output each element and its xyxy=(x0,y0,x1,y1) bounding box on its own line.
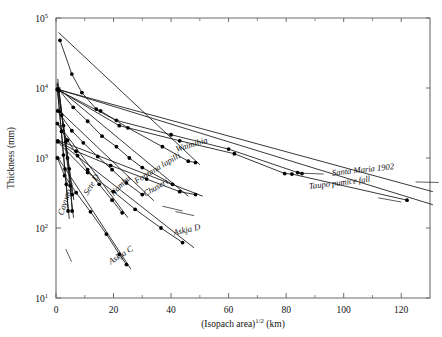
data-point xyxy=(126,126,130,130)
data-point xyxy=(80,91,84,95)
data-point xyxy=(181,241,185,245)
data-point xyxy=(74,149,78,153)
data-point xyxy=(64,140,68,144)
data-point xyxy=(296,171,300,175)
label-leader-line xyxy=(416,182,439,183)
data-point xyxy=(70,72,74,76)
data-point xyxy=(232,152,236,156)
y-tick-label: 105 xyxy=(35,12,48,24)
data-point xyxy=(227,147,231,151)
data-point xyxy=(186,159,190,163)
data-point xyxy=(67,167,71,171)
y-axis-tick-labels: 101102103104105 xyxy=(35,12,49,304)
data-point xyxy=(74,191,78,195)
x-tick-label: 40 xyxy=(166,305,176,315)
x-axis-title: (Isopach area)1/2 (km) xyxy=(201,317,285,330)
isopach-thickness-chart: 020406080100120 101102103104105 Santa Ma… xyxy=(0,0,442,337)
data-point xyxy=(56,140,60,144)
data-point xyxy=(56,156,60,160)
data-point xyxy=(60,113,64,117)
data-point xyxy=(109,164,113,168)
data-point xyxy=(283,172,287,176)
data-point xyxy=(133,207,137,211)
data-point xyxy=(110,168,114,172)
label-leader-line xyxy=(175,212,194,216)
data-point xyxy=(104,232,108,236)
data-point xyxy=(70,129,74,133)
x-tick-label: 0 xyxy=(54,305,59,315)
data-point xyxy=(100,134,104,138)
data-point xyxy=(161,145,165,149)
data-point xyxy=(194,193,198,197)
chart-canvas: 020406080100120 101102103104105 Santa Ma… xyxy=(0,0,442,337)
x-tick-label: 60 xyxy=(224,305,234,315)
series-santa-maria-1902 xyxy=(56,88,433,192)
x-tick-label: 100 xyxy=(337,305,352,315)
data-point xyxy=(86,119,90,123)
data-point xyxy=(86,171,90,175)
data-point xyxy=(110,198,114,202)
x-tick-label: 80 xyxy=(281,305,291,315)
y-tick-label: 102 xyxy=(35,222,48,234)
y-tick-label: 101 xyxy=(35,292,48,304)
data-point xyxy=(140,166,144,170)
label-leader-line xyxy=(162,206,182,211)
series-fit-line xyxy=(57,89,433,191)
label-leader-line xyxy=(66,249,72,262)
data-point xyxy=(120,211,124,215)
y-axis-title: Thickness (mm) xyxy=(6,127,17,189)
data-point xyxy=(178,190,182,194)
series-label: Askja C xyxy=(106,243,135,266)
series-polyline xyxy=(58,141,196,195)
x-axis-title-group: (Isopach area)1/2 (km) xyxy=(201,317,285,330)
data-point xyxy=(56,122,60,126)
data-point xyxy=(159,226,163,230)
data-point xyxy=(56,88,60,92)
data-point xyxy=(194,161,198,165)
series-label: Waimihia xyxy=(174,135,208,154)
data-point xyxy=(405,198,409,202)
series-layer xyxy=(56,33,433,269)
data-point xyxy=(81,141,85,145)
y-tick-label: 103 xyxy=(35,152,48,164)
x-tick-label: 120 xyxy=(394,305,409,315)
data-point xyxy=(71,105,75,109)
x-tick-label: 20 xyxy=(109,305,119,315)
data-point xyxy=(63,167,67,171)
data-point xyxy=(99,109,103,113)
data-point xyxy=(70,209,74,213)
data-point xyxy=(115,145,119,149)
data-point xyxy=(58,38,62,42)
data-point xyxy=(89,210,93,214)
data-point xyxy=(117,124,121,128)
series-label: Askja D xyxy=(171,221,202,237)
data-point xyxy=(127,156,131,160)
x-axis-tick-labels: 020406080100120 xyxy=(54,305,409,315)
data-point xyxy=(290,172,294,176)
data-point xyxy=(94,107,98,111)
data-point xyxy=(125,263,129,267)
data-point xyxy=(60,129,64,133)
data-point xyxy=(62,153,66,157)
y-tick-label: 104 xyxy=(35,82,49,94)
y-axis-title-group: Thickness (mm) xyxy=(6,127,17,189)
series-polyline xyxy=(58,90,302,174)
